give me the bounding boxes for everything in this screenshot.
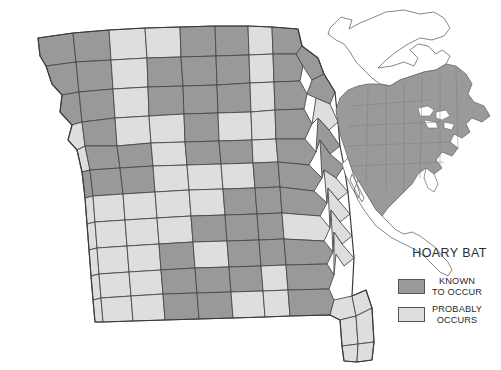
county-known-to-occur [274,81,307,110]
legend-label-known-line2: TO OCCUR [432,287,482,298]
county-probably-occurs [263,290,290,317]
county-probably-occurs [101,296,133,322]
legend-swatch-known [398,279,425,294]
county-probably-occurs [115,116,151,146]
county-probably-occurs [251,110,276,140]
county-probably-occurs [249,54,274,83]
county-probably-occurs [218,112,252,141]
county-known-to-occur [286,264,334,290]
missouri-counties-layer [38,26,374,362]
county-probably-occurs [127,244,161,272]
county-probably-occurs [109,28,147,60]
county-probably-occurs [125,218,159,246]
county-known-to-occur [195,267,231,293]
county-probably-occurs [252,139,278,163]
county-probably-occurs [193,241,229,268]
county-probably-occurs [357,342,374,362]
county-known-to-occur [259,239,286,266]
county-probably-occurs [93,194,125,222]
county-known-to-occur [120,166,155,194]
county-known-to-occur [185,141,221,165]
county-probably-occurs [157,216,193,244]
county-known-to-occur [216,55,250,85]
county-known-to-occur [60,92,82,125]
county-known-to-occur [85,146,120,170]
county-known-to-occur [147,57,183,87]
county-known-to-occur [217,83,251,113]
county-probably-occurs [145,27,181,58]
legend-item-probable: PROBABLY OCCURS [398,304,501,325]
county-known-to-occur [161,268,197,294]
county-known-to-occur [284,239,333,265]
county-known-to-occur [76,60,113,92]
county-probably-occurs [149,114,185,143]
county-known-to-occur [191,215,227,242]
county-known-to-occur [275,109,312,139]
county-probably-occurs [95,220,127,248]
legend-title: HOARY BAT [398,246,501,260]
county-known-to-occur [227,240,261,267]
county-known-to-occur [219,140,253,164]
county-known-to-occur [288,289,334,316]
county-known-to-occur [181,56,217,86]
county-probably-occurs [111,58,148,89]
county-probably-occurs [153,165,189,192]
county-known-to-occur [272,27,302,54]
county-known-to-occur [117,143,153,168]
county-known-to-occur [90,168,123,196]
county-probably-occurs [340,316,358,346]
county-known-to-occur [159,242,195,270]
county-known-to-occur [73,30,111,62]
county-known-to-occur [82,118,117,146]
county-known-to-occur [46,62,79,95]
county-known-to-occur [163,293,199,320]
county-probably-occurs [123,192,157,220]
county-known-to-occur [255,187,282,214]
county-known-to-occur [280,187,327,216]
county-known-to-occur [79,89,115,122]
county-probably-occurs [221,163,255,189]
county-probably-occurs [97,246,129,274]
legend-label-probable-line2: OCCURS [432,315,482,326]
county-probably-occurs [113,87,149,118]
county-known-to-occur [229,266,263,292]
legend-swatch-probable [398,307,425,322]
map-figure: HOARY BAT KNOWN TO OCCUR PROBABLY OCCURS [0,0,501,370]
county-known-to-occur [223,188,257,215]
county-known-to-occur [180,26,216,57]
county-probably-occurs [189,189,225,216]
county-known-to-occur [184,113,219,142]
legend-label-probable-line1: PROBABLY [432,304,482,315]
county-known-to-occur [253,162,280,188]
county-known-to-occur [183,85,218,114]
county-probably-occurs [250,82,275,112]
county-probably-occurs [131,294,165,321]
county-probably-occurs [187,164,223,190]
legend-label-known-line1: KNOWN [432,276,482,287]
county-known-to-occur [225,214,259,241]
county-known-to-occur [215,26,249,56]
county-probably-occurs [129,270,163,296]
county-probably-occurs [261,265,288,291]
county-probably-occurs [155,190,191,218]
county-known-to-occur [148,86,184,116]
county-probably-occurs [151,142,187,166]
county-probably-occurs [342,344,358,362]
county-probably-occurs [231,291,265,318]
county-known-to-occur [278,162,322,191]
legend-item-known: KNOWN TO OCCUR [398,276,501,297]
county-known-to-occur [276,139,316,165]
county-probably-occurs [99,272,131,298]
county-known-to-occur [257,213,284,240]
legend: HOARY BAT KNOWN TO OCCUR PROBABLY OCCURS [398,246,501,332]
county-known-to-occur [197,292,233,319]
county-probably-occurs [248,26,273,55]
county-probably-occurs [282,213,330,241]
